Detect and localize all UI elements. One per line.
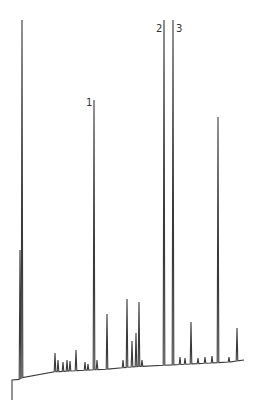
peak-label-3: 3 [176, 24, 182, 34]
chromatogram-trace [12, 20, 244, 400]
peak-label-1: 1 [86, 98, 92, 108]
peak-label-2: 2 [156, 24, 162, 34]
chromatogram-plot [0, 0, 254, 414]
